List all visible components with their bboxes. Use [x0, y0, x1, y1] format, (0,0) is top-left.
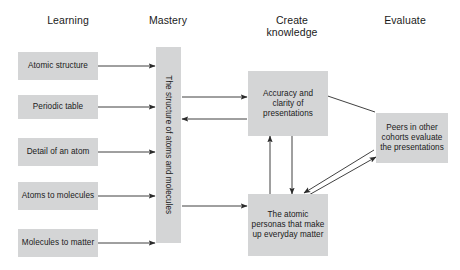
node-atomic-structure[interactable]: Atomic structure	[18, 52, 98, 80]
node-detail-of-an-atom[interactable]: Detail of an atom	[18, 138, 98, 166]
column-header-evaluate-label: Evaluate	[384, 14, 426, 26]
column-header-create-knowledge-line1: Create	[242, 14, 342, 26]
column-header-learning: Learning	[18, 14, 118, 26]
node-atomic-personas[interactable]: The atomic personas that make up everyda…	[248, 194, 328, 256]
node-accuracy-and-clarity[interactable]: Accuracy and clarity of presentations	[248, 71, 328, 136]
column-header-evaluate: Evaluate	[360, 14, 450, 26]
node-atomic-personas-label: The atomic personas that make up everyda…	[251, 210, 325, 240]
node-atoms-to-molecules-label: Atoms to molecules	[22, 191, 94, 201]
node-atomic-structure-label: Atomic structure	[28, 61, 88, 71]
node-detail-of-an-atom-label: Detail of an atom	[27, 147, 90, 157]
column-header-mastery: Mastery	[123, 14, 213, 26]
node-mastery-bar[interactable]: The structure of atoms and molecules	[156, 47, 181, 243]
node-periodic-table-label: Periodic table	[33, 102, 83, 112]
node-accuracy-and-clarity-label: Accuracy and clarity of presentations	[251, 89, 325, 119]
column-header-create-knowledge-line2: knowledge	[242, 26, 342, 38]
node-peers-in-other-cohorts[interactable]: Peers in other cohorts evaluate the pres…	[376, 113, 448, 163]
column-header-learning-label: Learning	[47, 14, 89, 26]
node-mastery-bar-label: The structure of atoms and molecules	[164, 76, 174, 215]
column-header-create-knowledge: Create knowledge	[242, 14, 342, 38]
edge-peers-to-atomic-personas	[304, 150, 374, 193]
node-periodic-table[interactable]: Periodic table	[18, 95, 98, 119]
node-molecules-to-matter[interactable]: Molecules to matter	[18, 229, 98, 257]
node-molecules-to-matter-label: Molecules to matter	[22, 238, 94, 248]
column-header-mastery-label: Mastery	[149, 14, 187, 26]
node-peers-in-other-cohorts-label: Peers in other cohorts evaluate the pres…	[379, 123, 445, 153]
learning-mastery-flow-diagram: Learning Mastery Create knowledge Evalua…	[0, 0, 460, 270]
node-atoms-to-molecules[interactable]: Atoms to molecules	[18, 182, 98, 210]
